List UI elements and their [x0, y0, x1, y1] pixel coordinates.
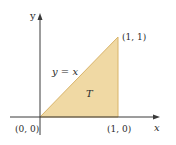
- curve-label: y = x: [51, 66, 78, 77]
- point-label-1-1: (1, 1): [122, 32, 146, 42]
- point-label-1-0: (1, 0): [107, 124, 131, 134]
- region-t: [40, 37, 118, 117]
- x-axis-arrow-icon: [153, 115, 160, 120]
- x-axis-label: x: [154, 122, 160, 133]
- y-axis-label: y: [29, 10, 36, 21]
- point-label-0-0: (0, 0): [15, 124, 39, 134]
- y-axis-arrow-icon: [38, 13, 43, 20]
- region-diagram: y x (1, 1) (0, 0) (1, 0) y = x T: [0, 0, 176, 145]
